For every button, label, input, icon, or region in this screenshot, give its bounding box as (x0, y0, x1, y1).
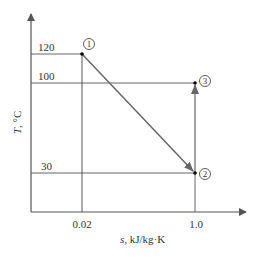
x-tick-002: 0.02 (72, 218, 91, 230)
y-tick-120: 120 (38, 41, 55, 53)
y-tick-30: 30 (41, 160, 53, 172)
x-axis-title: s, kJ/kg·K (120, 233, 165, 245)
state-point-1 (80, 52, 84, 56)
process-1-2 (82, 54, 193, 171)
y-axis-title: T, °C (11, 111, 23, 134)
svg-text:1: 1 (87, 39, 92, 49)
state-label-3: 3 (200, 76, 211, 87)
x-tick-10: 1.0 (189, 218, 203, 230)
state-point-3 (193, 81, 197, 85)
svg-text:2: 2 (203, 169, 208, 179)
state-point-2 (193, 171, 197, 175)
ts-diagram: 1 2 3 120 100 30 0.02 1.0 s, kJ/kg·K T, … (0, 0, 263, 259)
state-label-1: 1 (84, 39, 95, 50)
svg-text:3: 3 (203, 76, 208, 86)
state-label-2: 2 (200, 169, 211, 180)
y-tick-100: 100 (38, 70, 55, 82)
